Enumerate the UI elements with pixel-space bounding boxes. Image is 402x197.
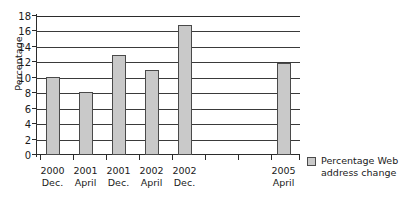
gridline [36, 109, 300, 110]
bar [79, 92, 93, 155]
y-tick-label: 16 [18, 26, 31, 37]
x-label-year: 2000 [40, 165, 64, 177]
y-tick-mark [32, 30, 36, 31]
bar [112, 55, 126, 155]
plot-top-border [36, 16, 300, 17]
x-axis-label: 2002Dec. [172, 165, 196, 189]
legend-swatch-icon [307, 157, 316, 166]
x-axis-label: 2001Dec. [106, 165, 130, 189]
x-label-month: Dec. [40, 177, 64, 189]
gridline [36, 140, 300, 141]
legend-label: Percentage Web address change [321, 155, 402, 178]
x-tick-mark [205, 155, 206, 160]
x-axis-label: 2001April [73, 165, 97, 189]
x-label-month: Dec. [106, 177, 130, 189]
x-axis-label: 2002April [139, 165, 163, 189]
x-label-month: April [139, 177, 163, 189]
x-tick-mark [40, 155, 41, 160]
y-tick-mark [32, 139, 36, 140]
x-tick-mark [172, 155, 173, 160]
x-tick-mark [139, 155, 140, 160]
y-tick-label: 6 [25, 103, 31, 114]
y-tick-label: 10 [18, 72, 31, 83]
x-label-year: 2001 [73, 165, 97, 177]
y-tick-label: 0 [25, 150, 31, 161]
y-tick-mark [32, 15, 36, 16]
y-tick-mark [32, 154, 36, 155]
y-tick-mark [32, 77, 36, 78]
x-tick-mark [106, 155, 107, 160]
gridline [36, 62, 300, 63]
x-label-year: 2002 [172, 165, 196, 177]
y-tick-label: 8 [25, 88, 31, 99]
y-tick-mark [32, 46, 36, 47]
gridline [36, 47, 300, 48]
x-tick-mark [299, 155, 300, 160]
gridline [36, 78, 300, 79]
x-label-year: 2005 [271, 165, 295, 177]
y-tick-label: 12 [18, 57, 31, 68]
gridline [36, 93, 300, 94]
bar [277, 63, 291, 155]
legend-label-line2: address change [321, 167, 396, 178]
gridline [36, 31, 300, 32]
x-axis-label: 2000Dec. [40, 165, 64, 189]
plot-baseline [36, 154, 300, 155]
y-tick-mark [32, 61, 36, 62]
bar-chart: Percentage 024681012141618 2000Dec.2001A… [0, 0, 402, 197]
bar [178, 25, 192, 156]
legend-label-line1: Percentage Web [321, 155, 398, 166]
gridline [36, 124, 300, 125]
y-tick-label: 14 [18, 41, 31, 52]
x-tick-mark [73, 155, 74, 160]
y-tick-label: 18 [18, 11, 31, 22]
x-label-month: April [271, 177, 295, 189]
x-tick-mark [238, 155, 239, 160]
y-tick-label: 4 [25, 119, 31, 130]
legend: Percentage Web address change [307, 155, 402, 178]
x-label-month: Dec. [172, 177, 196, 189]
bar [46, 77, 60, 155]
y-tick-mark [32, 92, 36, 93]
x-label-month: April [73, 177, 97, 189]
x-label-year: 2001 [106, 165, 130, 177]
y-tick-mark [32, 108, 36, 109]
y-tick-label: 2 [25, 134, 31, 145]
x-label-year: 2002 [139, 165, 163, 177]
x-axis-label: 2005April [271, 165, 295, 189]
x-tick-mark [271, 155, 272, 160]
y-tick-mark [32, 123, 36, 124]
bar [145, 70, 159, 155]
plot-area: 024681012141618 2000Dec.2001April2001Dec… [36, 16, 300, 155]
